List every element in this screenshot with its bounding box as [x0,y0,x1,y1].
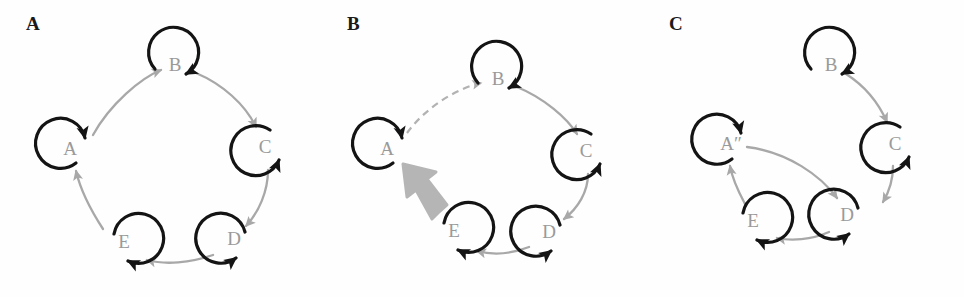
node-label-e: E [118,231,130,252]
edge-e-to-a [76,171,103,229]
figure-container: A [0,0,964,297]
edge-e-to-a [730,166,745,204]
node-label-b: B [825,54,838,75]
edge-c-to-d [246,170,268,226]
node-label-d: D [840,204,854,225]
edge-e-to-a-thick [403,164,447,219]
edge-b-to-c [846,74,887,122]
panel-a: A [0,0,321,297]
edge-b-to-c [196,73,256,127]
node-label-a: A [380,138,394,159]
panel-c-graph: A″ B C D E [643,0,964,297]
node-label-c: C [259,136,272,157]
node-label-e: E [448,220,460,241]
edge-a-to-b-dashed [407,83,481,133]
self-loop-c [861,123,909,173]
node-label-b: B [492,68,505,89]
panel-a-graph: A B C D E [0,0,321,297]
node-label-a: A″ [720,133,742,154]
panel-b-graph: A B C D E [321,0,642,297]
node-label-e: E [747,210,759,231]
edge-b-to-c [517,87,577,134]
edge-a-to-b [93,70,161,135]
self-loop-c [552,130,600,180]
node-label-d: D [227,228,241,249]
node-label-a: A [63,138,77,159]
node-label-c: C [580,140,593,161]
node-label-b: B [169,54,182,75]
self-loop-a [36,118,85,168]
node-label-c: C [889,133,902,154]
self-loop-c [231,126,279,176]
panel-b: B [321,0,642,297]
panel-c: C [643,0,964,297]
node-label-d: D [542,221,556,242]
transition-edges [403,83,588,253]
self-loop-a [353,118,402,168]
